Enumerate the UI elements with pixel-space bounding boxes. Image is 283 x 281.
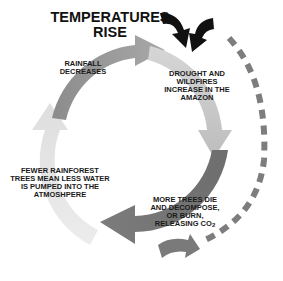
co2-subscript: 2 bbox=[212, 222, 215, 228]
label-rainfall-decreases: RAINFALL DECREASES bbox=[48, 60, 118, 76]
label-drought-wildfires: DROUGHT AND WILDFIRES INCREASE IN THE AM… bbox=[158, 70, 236, 102]
small-curved-arrow bbox=[158, 234, 200, 258]
arrow-rainfall-to-drought bbox=[52, 35, 165, 120]
label-more-trees-die-text: MORE TREES DIE AND DECOMPOSE, OR BURN, R… bbox=[150, 195, 219, 228]
arrow-drought-to-trees bbox=[148, 46, 232, 158]
title-temperatures-rise: TEMPERATURES RISE bbox=[45, 10, 175, 39]
label-more-trees-die: MORE TREES DIE AND DECOMPOSE, OR BURN, R… bbox=[150, 196, 220, 228]
feedback-loop-diagram bbox=[0, 0, 283, 281]
label-fewer-trees: FEWER RAINFOREST TREES MEAN LESS WATER I… bbox=[10, 167, 110, 199]
